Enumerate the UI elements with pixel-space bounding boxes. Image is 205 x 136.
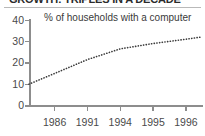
chart-figure: GROWTH: TRIPLES IN A DECADE % of househo… [0, 0, 205, 136]
y-tick-mark [25, 41, 29, 43]
y-tick-mark [25, 105, 29, 107]
y-tick-0: 0 [0, 100, 24, 110]
y-tick-label: 0 [2, 100, 24, 110]
x-tick-mark [87, 106, 89, 111]
x-tick-mark [120, 106, 122, 111]
y-tick-label: 10 [2, 79, 24, 89]
y-tick-20: 20 [0, 57, 24, 67]
x-tick-mark [152, 106, 154, 111]
x-tick-mark [54, 106, 56, 111]
y-tick-30: 30 [0, 36, 24, 46]
y-tick-40: 40 [0, 15, 24, 25]
y-tick-mark [25, 84, 29, 86]
x-tick-label-1996: 1996 [166, 116, 205, 128]
chart-subtitle: % of households with a computer [44, 12, 191, 23]
y-tick-10: 10 [0, 79, 24, 89]
y-tick-label: 40 [2, 15, 24, 25]
y-tick-mark [25, 62, 29, 64]
y-axis-line [29, 19, 31, 106]
y-tick-mark [25, 20, 29, 22]
y-tick-label: 30 [2, 36, 24, 46]
x-tick-mark [185, 106, 187, 111]
title-divider [4, 7, 201, 8]
y-tick-label: 20 [2, 57, 24, 67]
chart-title-band: GROWTH: TRIPLES IN A DECADE [0, 0, 205, 7]
chart-title: GROWTH: TRIPLES IN A DECADE [9, 0, 181, 5]
